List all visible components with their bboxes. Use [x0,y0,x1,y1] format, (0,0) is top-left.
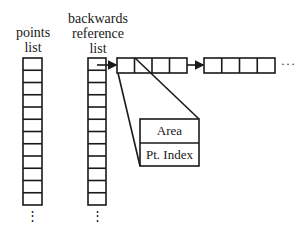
record-field-pt-index: Pt. Index [140,147,199,163]
chain-block-2 [204,58,275,73]
expansion-line-right [135,58,199,119]
chain-continuation: ··· [281,57,296,72]
backwards-reference-list-column [88,58,106,205]
diagram-canvas [0,0,305,234]
record-field-area: Area [140,123,199,139]
chain-block-1 [117,58,187,73]
points-list-column [23,58,42,205]
expansion-line-left [118,73,140,166]
backwards-list-continuation: ⋮ [91,214,97,218]
points-list-continuation: ⋮ [26,214,32,218]
